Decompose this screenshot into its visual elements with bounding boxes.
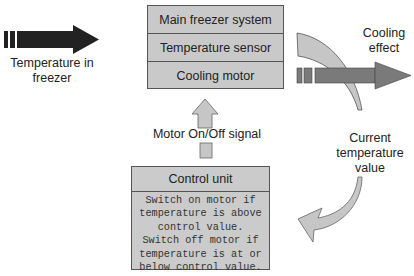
input-arrow [4,25,99,54]
signal-label: Motor On/Off signal [145,127,269,142]
control-unit-box: Control unit Switch on motor if temperat… [131,166,270,270]
output-label: Cooling effect [356,26,412,56]
cooling-motor-row: Cooling motor [148,62,283,90]
main-freezer-system-row: Main freezer system [148,6,283,34]
feedback-arrow-lower [298,177,362,242]
control-unit-rules: Switch on motor if temperature is above … [132,192,269,274]
temperature-sensor-row: Temperature sensor [148,34,283,62]
input-label: Temperature in freezer [0,56,104,86]
control-unit-title: Control unit [132,167,269,192]
main-freezer-system-box: Main freezer system Temperature sensor C… [147,5,284,89]
feedback-label: Current temperature value [330,131,410,176]
